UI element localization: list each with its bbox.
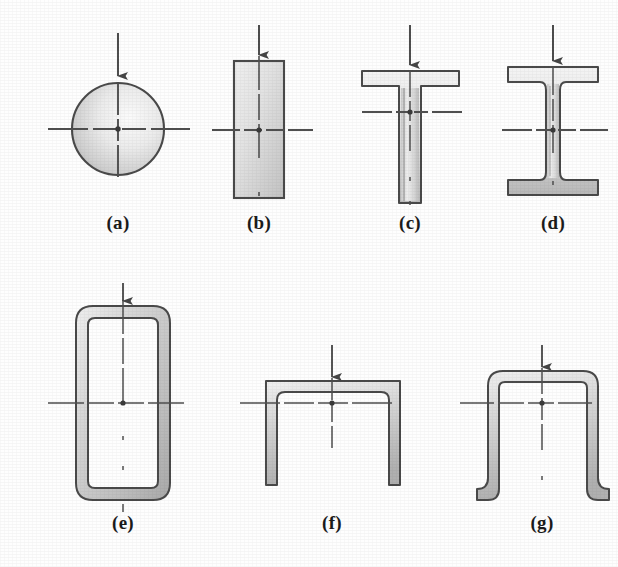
panel-g-hat-section (460, 345, 614, 500)
panel-a-circular-section (48, 33, 190, 198)
panel-e-tube-section (48, 283, 200, 512)
centroid-marker-a (115, 126, 120, 131)
centroid-marker-e (120, 400, 125, 405)
centroid-marker-b (256, 127, 261, 132)
centroid-marker-d (550, 127, 555, 132)
panel-label-b: (b) (229, 212, 289, 234)
centroid-marker-c (407, 109, 412, 114)
panel-label-a: (a) (88, 212, 148, 234)
panel-f-channel-section (240, 345, 422, 485)
hat-outline (477, 371, 609, 500)
panel-label-e: (e) (93, 512, 153, 534)
panel-label-c: (c) (380, 212, 440, 234)
panel-label-f: (f) (302, 512, 362, 534)
panel-label-d: (d) (523, 212, 583, 234)
panel-c-tee-section (362, 25, 466, 212)
panel-label-g: (g) (512, 512, 572, 534)
centroid-marker-f (329, 400, 334, 405)
centroid-marker-g (539, 400, 544, 405)
figure-plate: (a) (b) (c) (d) (e) (f) (g) (0, 0, 618, 567)
channel-outline (266, 381, 400, 485)
panel-d-i-section (502, 25, 608, 205)
cross-section-drawing-canvas (0, 0, 618, 567)
panel-b-rectangular-section (212, 25, 313, 212)
